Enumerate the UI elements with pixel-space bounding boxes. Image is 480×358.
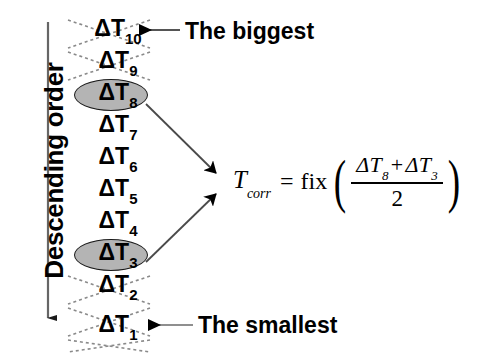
formula-close-paren: ) — [448, 160, 460, 203]
formula-numerator: ΔT8+ΔT3 — [351, 152, 443, 182]
list-item-deltaT1[interactable]: ΔT1 — [72, 310, 164, 342]
list-item-deltaT9[interactable]: ΔT9 — [72, 46, 164, 78]
list-item-deltaT2[interactable]: ΔT2 — [72, 270, 164, 302]
formula-lhs: Tcorr — [233, 166, 271, 198]
descending-order-label: Descending order — [39, 21, 70, 321]
delta-t-label: ΔT1 — [99, 313, 138, 340]
delta-t-label: ΔT8 — [99, 81, 138, 108]
formula-fraction: ΔT8+ΔT3 2 — [351, 152, 443, 212]
formula-equals: = — [280, 168, 294, 195]
diagram-canvas: Descending order ΔT10 ΔT9 ΔT8 ΔT7 ΔT6 ΔT… — [0, 0, 480, 358]
delta-t-label: ΔT5 — [99, 177, 138, 204]
formula-open-paren: ( — [334, 160, 346, 203]
delta-t-label: ΔT7 — [99, 113, 138, 140]
delta-t-list: ΔT10 ΔT9 ΔT8 ΔT7 ΔT6 ΔT5 ΔT4 ΔT3 ΔT2 — [72, 0, 164, 358]
list-item-deltaT4[interactable]: ΔT4 — [72, 206, 164, 238]
delta-t-label: ΔT10 — [94, 17, 141, 44]
formula-fix-operator: fix — [301, 168, 328, 195]
list-item-deltaT3[interactable]: ΔT3 — [72, 238, 164, 270]
list-item-deltaT6[interactable]: ΔT6 — [72, 142, 164, 174]
delta-t-label: ΔT9 — [99, 49, 138, 76]
annotation-the-biggest: The biggest — [185, 18, 314, 45]
delta-t-label: ΔT6 — [99, 145, 138, 172]
list-item-deltaT7[interactable]: ΔT7 — [72, 110, 164, 142]
list-item-deltaT10[interactable]: ΔT10 — [72, 14, 164, 46]
delta-t-label: ΔT2 — [99, 273, 138, 300]
formula-denominator: 2 — [391, 184, 403, 212]
delta-t-label: ΔT4 — [99, 209, 138, 236]
list-item-deltaT8[interactable]: ΔT8 — [72, 78, 164, 110]
delta-t-label: ΔT3 — [99, 241, 138, 268]
list-item-deltaT5[interactable]: ΔT5 — [72, 174, 164, 206]
correction-formula: Tcorr = fix ( ΔT8+ΔT3 2 ) — [233, 152, 464, 212]
annotation-the-smallest: The smallest — [198, 312, 337, 339]
